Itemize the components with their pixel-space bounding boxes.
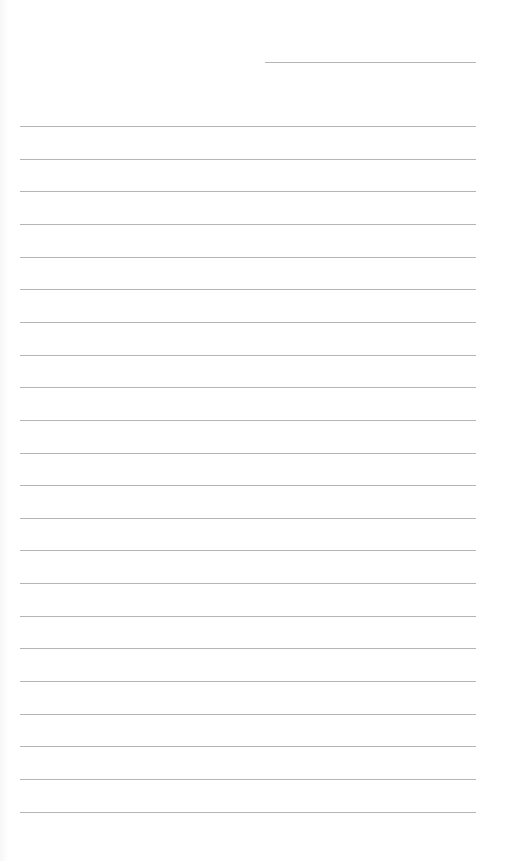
ruled-line [20, 387, 476, 388]
ruled-line [20, 681, 476, 682]
ruled-line [20, 126, 476, 127]
ruled-line [20, 322, 476, 323]
ruled-line [20, 420, 476, 421]
ruled-line [20, 257, 476, 258]
header-date-line [265, 62, 476, 63]
ruled-line [20, 648, 476, 649]
ruled-line [20, 191, 476, 192]
ruled-line [20, 714, 476, 715]
ruled-line [20, 224, 476, 225]
ruled-line [20, 583, 476, 584]
ruled-line [20, 779, 476, 780]
ruled-line [20, 550, 476, 551]
ruled-line [20, 159, 476, 160]
ruled-line [20, 289, 476, 290]
ruled-line [20, 485, 476, 486]
ruled-line [20, 518, 476, 519]
ruled-line [20, 355, 476, 356]
ruled-line [20, 453, 476, 454]
lined-paper-page [0, 0, 509, 861]
ruled-line [20, 812, 476, 813]
ruled-line [20, 746, 476, 747]
ruled-line [20, 616, 476, 617]
